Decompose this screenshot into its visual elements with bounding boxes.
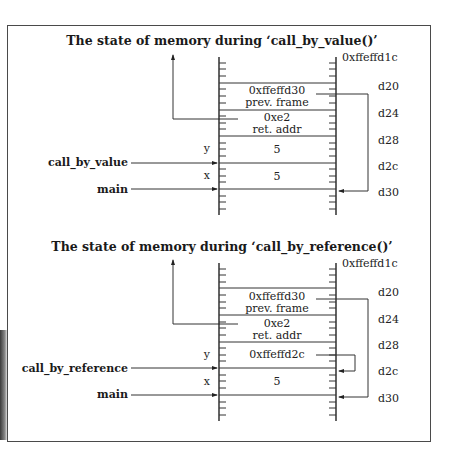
return-arrow [173, 55, 238, 119]
var-y: y [203, 142, 211, 155]
frame-label-call-by-reference: call_by_reference [22, 362, 128, 376]
cell-x-value: 5 [274, 375, 281, 388]
var-y: y [203, 348, 211, 361]
cell-ret-addr-label: ret. addr [252, 329, 302, 342]
return-arrow [173, 260, 238, 324]
prev-frame-pointer-arrow [316, 94, 368, 191]
address-d24: d24 [378, 107, 399, 120]
cell-prev-frame-label: prev. frame [245, 96, 309, 109]
address-d30: d30 [378, 392, 399, 405]
cell-x-value: 5 [274, 170, 281, 183]
cell-y-value: 0xffeffd2c [249, 348, 305, 361]
cell-prev-frame-label: prev. frame [245, 302, 309, 315]
frame-label-main: main [97, 183, 128, 196]
memory-diagrams: The state of memory during ‘call_by_valu… [0, 0, 453, 466]
address-d20: d20 [378, 286, 399, 299]
var-x: x [204, 375, 211, 388]
diagram-call-by-value: The state of memory during ‘call_by_valu… [48, 33, 399, 215]
address-top: 0xffeffd1c [342, 257, 398, 270]
frame-label-main: main [97, 388, 128, 401]
var-x: x [204, 169, 211, 182]
cell-ret-addr-label: ret. addr [252, 123, 302, 136]
address-d30: d30 [378, 186, 399, 199]
address-d28: d28 [378, 134, 399, 147]
address-d24: d24 [378, 313, 399, 326]
address-d2c: d2c [378, 160, 398, 173]
cell-y-value: 5 [274, 143, 281, 156]
diagram-call-by-reference: The state of memory during ‘call_by_refe… [22, 239, 399, 421]
address-d28: d28 [378, 339, 399, 352]
address-d20: d20 [378, 80, 399, 93]
address-top: 0xffeffd1c [342, 51, 398, 64]
diagram-title: The state of memory during ‘call_by_refe… [51, 239, 392, 255]
address-d2c: d2c [378, 365, 398, 378]
diagram-title: The state of memory during ‘call_by_valu… [66, 33, 377, 49]
prev-frame-pointer-arrow [316, 299, 368, 397]
frame-label-call-by-value: call_by_value [48, 156, 128, 170]
